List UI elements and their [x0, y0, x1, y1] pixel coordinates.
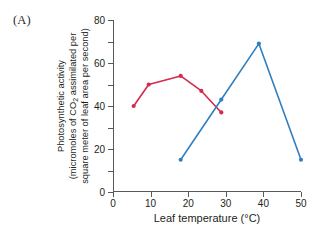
series-2: [179, 42, 304, 162]
data-point-marker: [219, 97, 223, 101]
x-axis-tick-label: 40: [258, 198, 269, 209]
y-axis-tick-label: 40: [94, 101, 105, 112]
x-axis-title: Leaf temperature (°C): [113, 212, 301, 224]
x-axis-tick-label: 50: [295, 198, 306, 209]
x-axis-tick-label: 10: [145, 198, 156, 209]
x-axis-tick-label: 20: [183, 198, 194, 209]
y-axis-title-line-1: Photosynthetic activity: [56, 60, 67, 152]
data-point-marker: [257, 42, 261, 46]
x-axis-tick-label: 30: [220, 198, 231, 209]
co2-subscript: 2: [71, 98, 78, 102]
y-axis-tick-label: 20: [94, 144, 105, 155]
y-axis-tick-label: 60: [94, 58, 105, 69]
x-axis-tick: [113, 192, 114, 197]
data-point-marker: [132, 104, 136, 108]
series-line: [181, 44, 301, 160]
y-axis-tick-label: 0: [99, 187, 105, 198]
data-point-marker: [179, 74, 183, 78]
y-axis-tick-label: 80: [94, 15, 105, 26]
y-axis-title-line-2-suffix: assimilated per: [68, 33, 78, 98]
data-point-marker: [199, 89, 203, 93]
y-axis-title-line-2-prefix: (micromoles of CO: [68, 102, 78, 180]
data-point-marker: [147, 82, 151, 86]
x-axis-tick: [226, 192, 227, 197]
figure-panel-a: (A) Photosynthetic activity (micromoles …: [0, 0, 323, 236]
x-axis-tick: [301, 192, 302, 197]
series-canvas: [113, 20, 301, 192]
x-axis-tick: [188, 192, 189, 197]
x-axis-tick: [151, 192, 152, 197]
series-1: [132, 74, 224, 115]
panel-label: (A): [13, 13, 31, 28]
y-axis-title-line-2: (micromoles of CO2 assimilated per: [68, 33, 81, 180]
y-axis-title-line-3: square meter of leaf area per second): [80, 28, 91, 184]
plot-area: 020406080 01020304050: [113, 20, 301, 192]
x-axis-tick: [263, 192, 264, 197]
series-line: [134, 76, 222, 113]
data-point-marker: [299, 158, 303, 162]
data-point-marker: [219, 110, 223, 114]
x-axis-tick-label: 0: [110, 198, 116, 209]
data-point-marker: [179, 158, 183, 162]
